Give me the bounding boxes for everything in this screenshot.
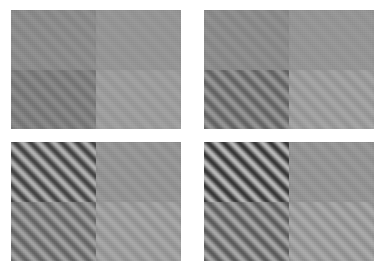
- quadrant-noise-overlay: [11, 142, 96, 202]
- panel-bottom-right: [204, 142, 374, 261]
- stimulus-grid: [0, 0, 387, 271]
- panel-bottom-left: [11, 142, 181, 261]
- quadrant-noise-overlay: [289, 70, 374, 130]
- quadrant-noise-overlay: [204, 202, 289, 262]
- quadrant-noise-overlay: [289, 202, 374, 262]
- quadrant-noise-overlay: [96, 10, 181, 70]
- quadrant-noise-overlay: [96, 70, 181, 130]
- panel-bottom-left-q-bl: [11, 202, 96, 262]
- panel-top-left-q-bl: [11, 70, 96, 130]
- panel-bottom-left-q-tr: [96, 142, 181, 202]
- panel-bottom-left-q-tl: [11, 142, 96, 202]
- panel-top-right: [204, 10, 374, 129]
- panel-bottom-right-q-bl: [204, 202, 289, 262]
- panel-top-right-q-tl: [204, 10, 289, 70]
- panel-top-right-q-br: [289, 70, 374, 130]
- quadrant-noise-overlay: [11, 70, 96, 130]
- panel-top-right-q-tr: [289, 10, 374, 70]
- panel-top-right-q-bl: [204, 70, 289, 130]
- quadrant-noise-overlay: [289, 142, 374, 202]
- panel-bottom-right-q-tr: [289, 142, 374, 202]
- quadrant-noise-overlay: [204, 10, 289, 70]
- quadrant-noise-overlay: [96, 202, 181, 262]
- quadrant-noise-overlay: [204, 142, 289, 202]
- panel-top-left-q-br: [96, 70, 181, 130]
- quadrant-noise-overlay: [289, 10, 374, 70]
- panel-top-left: [11, 10, 181, 129]
- quadrant-noise-overlay: [11, 202, 96, 262]
- panel-top-left-q-tr: [96, 10, 181, 70]
- quadrant-noise-overlay: [96, 142, 181, 202]
- panel-bottom-left-q-br: [96, 202, 181, 262]
- panel-bottom-right-q-tl: [204, 142, 289, 202]
- quadrant-noise-overlay: [204, 70, 289, 130]
- panel-bottom-right-q-br: [289, 202, 374, 262]
- quadrant-noise-overlay: [11, 10, 96, 70]
- panel-top-left-q-tl: [11, 10, 96, 70]
